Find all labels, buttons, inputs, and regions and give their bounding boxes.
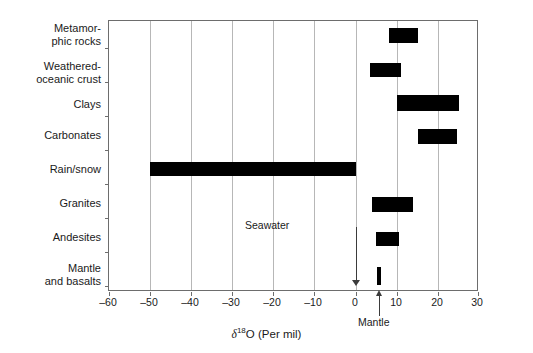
y-tick-3	[105, 150, 109, 151]
bar-metamorphic-rocks	[389, 28, 418, 43]
y-tick-5	[105, 218, 109, 219]
gridline--50	[150, 21, 151, 290]
chart-figure: Metamor- phic rocks Weathered- oceanic c…	[0, 0, 533, 353]
bar-weathered-oceanic-crust	[370, 63, 401, 77]
gridline--30	[232, 21, 233, 290]
bar-granites	[372, 197, 413, 212]
x-tick-label-20: 20	[417, 296, 457, 308]
x-tick-label--50: –50	[129, 296, 169, 308]
x-tick-label--40: –40	[170, 296, 210, 308]
x-tick-label-10: 10	[376, 296, 416, 308]
y-label-mantle-and-basalts: Mantle and basalts	[0, 262, 101, 287]
x-tick-label-0: 0	[335, 296, 375, 308]
plot-area: Seawater	[108, 20, 478, 291]
x-tick-label--20: –20	[252, 296, 292, 308]
x-axis-title-element: O	[246, 328, 255, 340]
annotation-mantle-label: Mantle	[358, 316, 390, 328]
y-label-weathered-oceanic-crust: Weathered- oceanic crust	[0, 60, 101, 85]
y-tick-0	[105, 48, 109, 49]
x-tick-label-30: 30	[457, 296, 497, 308]
y-label-granites: Granites	[0, 197, 101, 210]
y-label-metamorphic-rocks: Metamor- phic rocks	[0, 22, 101, 47]
bar-rain-snow	[150, 162, 356, 176]
x-axis-title-superscript: 18	[237, 326, 246, 335]
y-tick-4	[105, 184, 109, 185]
annotation-mantle-line	[379, 296, 380, 316]
y-label-andesites: Andesites	[0, 231, 101, 244]
x-axis-title-units: (Per mil)	[258, 328, 301, 340]
bar-andesites	[376, 232, 399, 246]
bar-clays	[397, 95, 459, 111]
y-label-rain-snow: Rain/snow	[0, 163, 101, 176]
gridline--40	[191, 21, 192, 290]
y-tick-2	[105, 116, 109, 117]
bar-carbonates	[418, 129, 457, 144]
gridline-20	[438, 21, 439, 290]
y-tick-7	[105, 286, 109, 287]
x-axis-title: δ18O (Per mil)	[0, 328, 533, 340]
annotation-seawater-line	[356, 227, 357, 280]
y-label-carbonates: Carbonates	[0, 129, 101, 142]
x-tick-label--60: –60	[88, 296, 128, 308]
gridline-10	[397, 21, 398, 290]
gridline--10	[314, 21, 315, 290]
x-tick-label--10: –10	[293, 296, 333, 308]
x-tick-label--30: –30	[211, 296, 251, 308]
y-label-clays: Clays	[0, 98, 101, 111]
bar-mantle-and-basalts	[377, 267, 381, 285]
y-tick-1	[105, 82, 109, 83]
annotation-seawater-arrow-icon	[352, 280, 360, 286]
y-tick-6	[105, 252, 109, 253]
annotation-seawater-label: Seawater	[245, 219, 289, 231]
gridline--20	[273, 21, 274, 290]
